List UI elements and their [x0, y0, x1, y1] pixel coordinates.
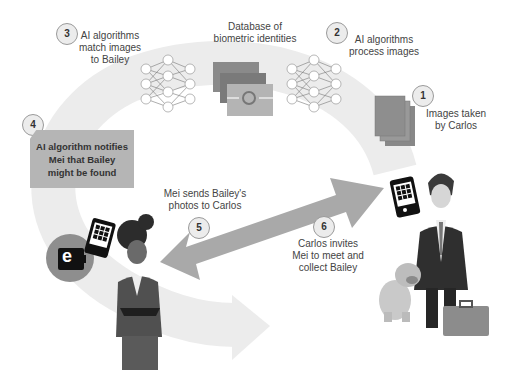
step-2-label: AI algorithms process images [348, 34, 420, 58]
flow-arc-arrowhead [232, 295, 270, 360]
step-1-label: Images taken by Carlos [420, 108, 492, 132]
step-badge-5: 5 [188, 217, 210, 239]
step-badge-6: 6 [313, 216, 335, 238]
step-badge-2: 2 [326, 22, 348, 44]
notification-box: AI algorithm notifies Mei that Bailey mi… [30, 130, 134, 188]
step-5-label: Mei sends Bailey's photos to Carlos [160, 188, 250, 212]
wallet-e-glyph: e [62, 246, 72, 267]
phone-icon-mei [84, 218, 116, 259]
step-badge-1: 1 [412, 85, 434, 107]
diagram-graphics [0, 0, 509, 384]
step-6-label: Carlos invites Mei to meet and collect B… [290, 238, 366, 274]
step-badge-3: 3 [56, 23, 78, 45]
database-label: Database of biometric identities [200, 21, 310, 45]
phone-icon-carlos [389, 176, 420, 218]
photo-stack-icon [375, 96, 415, 146]
dog-figure [379, 263, 421, 322]
step-3-label: AI algorithms match images to Bailey [78, 30, 142, 66]
carlos-figure [414, 173, 489, 336]
mei-figure [116, 214, 162, 370]
